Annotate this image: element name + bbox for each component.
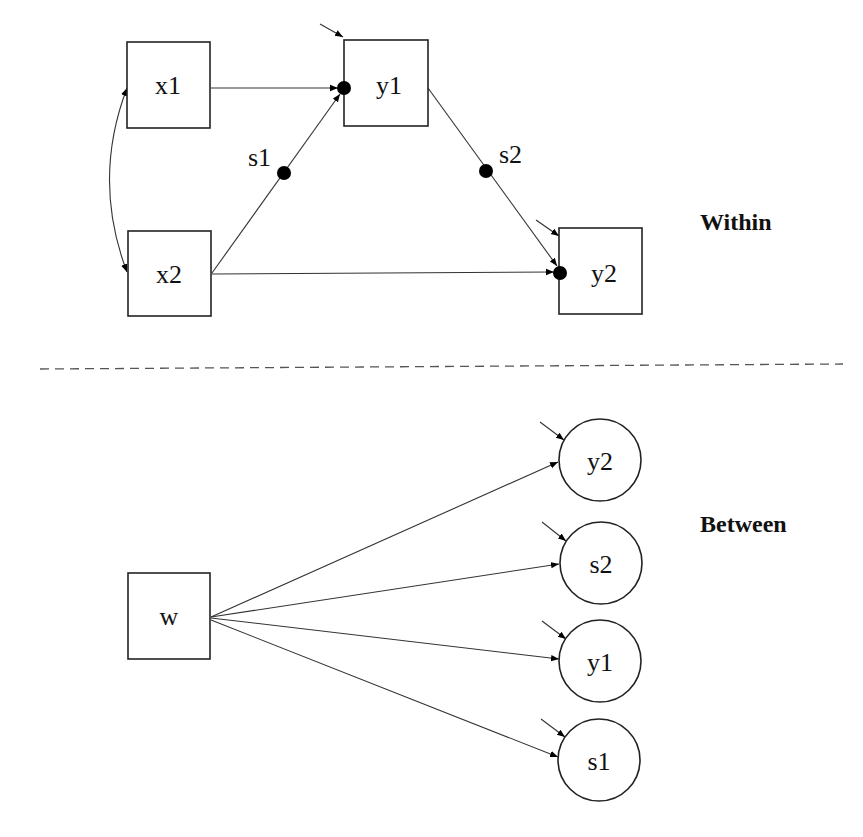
section-label-between: Between — [700, 511, 787, 537]
node-y1: y1 — [344, 40, 428, 126]
edge-w-y2 — [211, 462, 558, 617]
random-intercept-dot-y1 — [337, 81, 351, 95]
residual-y2b — [540, 422, 564, 440]
level-divider — [40, 364, 843, 369]
section-label-within: Within — [700, 209, 772, 235]
edge-x2-y2 — [212, 272, 554, 274]
edge-y1-y2 — [428, 88, 557, 266]
residual-y2 — [536, 220, 559, 236]
edge-w-s2 — [211, 564, 559, 617]
node-x2: x2 — [128, 231, 211, 316]
node-y1-label: y1 — [376, 71, 402, 100]
slope-label-s2: s2 — [499, 140, 522, 169]
node-y1-between-label: y1 — [587, 648, 613, 677]
residual-y1 — [320, 24, 343, 37]
node-x2-label: x2 — [156, 260, 182, 289]
slope-label-s1: s1 — [248, 143, 271, 172]
node-s2-between: s2 — [560, 522, 642, 604]
node-y2-between: y2 — [559, 419, 641, 501]
node-s2-between-label: s2 — [589, 550, 612, 579]
node-s1-between-label: s1 — [587, 747, 610, 776]
node-y2: y2 — [559, 228, 642, 314]
between-section: w y2 s2 y1 s1 Between — [128, 419, 787, 801]
diagram-canvas: x1 x2 y1 y2 s1 s2 Within — [0, 0, 863, 837]
node-w-label: w — [160, 602, 179, 631]
random-intercept-dot-y2 — [553, 266, 567, 280]
residual-s2b — [542, 522, 566, 541]
edge-w-y1 — [211, 618, 559, 659]
edge-w-s1 — [211, 620, 558, 757]
node-w: w — [128, 573, 210, 659]
node-s1-between: s1 — [558, 719, 640, 801]
random-slope-dot-s1 — [277, 166, 291, 180]
within-section: x1 x2 y1 y2 s1 s2 Within — [110, 24, 772, 316]
node-x1-label: x1 — [155, 71, 181, 100]
node-y1-between: y1 — [559, 620, 641, 702]
node-y2-label: y2 — [591, 259, 617, 288]
node-y2-between-label: y2 — [587, 447, 613, 476]
random-slope-dot-s2 — [479, 164, 493, 178]
covariance-x1-x2 — [110, 88, 128, 272]
edge-x2-y1 — [212, 94, 340, 273]
node-x1: x1 — [127, 42, 210, 128]
residual-s1b — [541, 719, 565, 737]
residual-y1b — [542, 621, 566, 639]
